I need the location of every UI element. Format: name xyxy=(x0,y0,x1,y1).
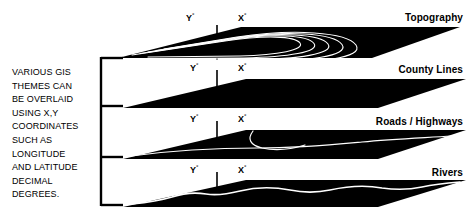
degree-icon: ° xyxy=(244,164,246,170)
degree-icon: ° xyxy=(244,12,246,18)
axis-y-label-roads-highways: Y° xyxy=(190,115,198,124)
layer-label-rivers: Rivers xyxy=(432,167,463,178)
degree-icon: ° xyxy=(244,113,246,119)
axis-x-label-county-lines: X° xyxy=(238,64,246,73)
degree-icon: ° xyxy=(244,62,246,68)
slab-shape-topography xyxy=(118,27,460,58)
degree-icon: ° xyxy=(196,164,198,170)
degree-icon: ° xyxy=(196,113,198,119)
degree-icon: ° xyxy=(196,62,198,68)
gis-layers-diagram: VARIOUS GIS THEMES CAN BE OVERLAID USING… xyxy=(0,0,470,217)
layer-slab-county-lines xyxy=(123,70,466,108)
layer-label-topography: Topography xyxy=(405,12,463,23)
axis-y-label-county-lines: Y° xyxy=(190,64,198,73)
axis-y-label-rivers: Y° xyxy=(190,166,198,175)
slab-shape-county-lines xyxy=(123,79,466,108)
grouping-bracket xyxy=(101,57,123,206)
slab-shape-roads-highways xyxy=(123,130,466,159)
axis-x-label-roads-highways: X° xyxy=(238,115,246,124)
description-text: VARIOUS GIS THEMES CAN BE OVERLAID USING… xyxy=(12,66,96,202)
axis-y-label-topography: Y° xyxy=(186,14,194,23)
layer-slab-rivers xyxy=(123,172,466,207)
layer-label-roads-highways: Roads / Highways xyxy=(376,116,463,127)
layer-label-county-lines: County Lines xyxy=(398,64,463,75)
degree-icon: ° xyxy=(192,12,194,18)
slab-shape-rivers xyxy=(123,180,466,207)
layer-slab-topography xyxy=(118,25,460,64)
axis-x-label-topography: X° xyxy=(238,14,246,23)
axis-x-label-rivers: X° xyxy=(238,166,246,175)
